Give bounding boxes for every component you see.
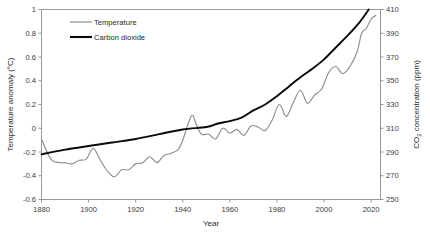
series-line-temperature (42, 15, 376, 177)
climate-chart: -0.6-0.4-0.200.20.40.60.8125027029031033… (0, 0, 430, 244)
y-axis-right-tick-label: 370 (386, 53, 399, 62)
x-axis-tick-label: 2000 (316, 205, 333, 214)
legend-label-carbon-dioxide: Carbon dioxide (94, 33, 145, 42)
chart-canvas: -0.6-0.4-0.200.20.40.60.8125027029031033… (0, 0, 430, 244)
x-axis-tick-label: 1980 (268, 205, 285, 214)
y-axis-right-tick-label: 410 (386, 5, 399, 14)
y-axis-right-title: CO2 concentration (ppm) (412, 60, 422, 149)
y-axis-left-tick-label: 0.4 (25, 76, 36, 85)
y-axis-left-tick-label: -0.2 (23, 148, 36, 157)
x-axis-tick-label: 1900 (80, 205, 97, 214)
y-axis-left-tick-label: -0.4 (23, 171, 36, 180)
y-axis-left-tick-label: 0.2 (25, 100, 36, 109)
y-axis-left-tick-label: 0.8 (25, 29, 36, 38)
x-axis-tick-label: 1940 (174, 205, 191, 214)
y-axis-right-tick-label: 350 (386, 76, 399, 85)
legend-label-temperature: Temperature (94, 18, 137, 27)
y-axis-left-tick-label: 0.6 (25, 53, 36, 62)
y-axis-right-tick-label: 390 (386, 29, 399, 38)
y-axis-right-tick-label: 290 (386, 148, 399, 157)
y-axis-right-tick-label: 270 (386, 171, 399, 180)
y-axis-left-tick-label: 1 (32, 5, 36, 14)
x-axis-tick-label: 2020 (363, 205, 380, 214)
x-axis-tick-label: 1880 (33, 205, 50, 214)
y-axis-left-title: Temperature anomaly (°C) (6, 57, 15, 151)
x-axis-tick-label: 1920 (127, 205, 144, 214)
y-axis-left-tick-label: -0.6 (23, 195, 36, 204)
x-axis-title: Year (203, 219, 220, 228)
y-axis-left-tick-label: 0 (32, 124, 36, 133)
y-axis-right-tick-label: 310 (386, 124, 399, 133)
y-axis-right-tick-label: 250 (386, 195, 399, 204)
y-axis-right-tick-label: 330 (386, 100, 399, 109)
x-axis-tick-label: 1960 (221, 205, 238, 214)
series-line-carbon-dioxide (42, 10, 369, 155)
